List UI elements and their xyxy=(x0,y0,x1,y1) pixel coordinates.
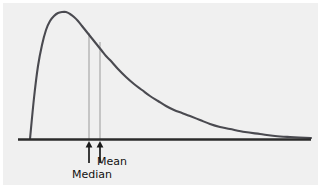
distribution-chart-canvas xyxy=(0,0,321,194)
median-label: Median xyxy=(72,169,112,181)
mean-label: Mean xyxy=(97,156,127,168)
distribution-figure: Mean Median xyxy=(0,0,321,194)
plot-background xyxy=(3,3,318,185)
